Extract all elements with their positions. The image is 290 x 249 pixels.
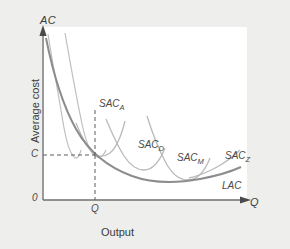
sac-m-label-subscript: M bbox=[198, 157, 204, 166]
figure-container: AC Q Average cost Output 0 C Q SACA SACD… bbox=[0, 0, 290, 249]
chart-canvas bbox=[0, 0, 290, 249]
sac-curve-2 bbox=[65, 33, 106, 157]
x-axis-name: Q bbox=[250, 196, 259, 208]
sac-m-label: SACM bbox=[177, 152, 204, 166]
sac-d-label-subscript: D bbox=[159, 144, 164, 153]
sac-m-label-base: SAC bbox=[177, 152, 198, 163]
y-axis-name: AC bbox=[40, 14, 56, 26]
lac-curve bbox=[46, 38, 241, 182]
sac-z-label-base: SAC bbox=[225, 150, 246, 161]
sac-z-label-subscript: Z bbox=[246, 155, 251, 164]
sac-d-label-base: SAC bbox=[138, 139, 159, 150]
lac-label: LAC bbox=[222, 180, 241, 191]
sac-a-label-subscript: A bbox=[120, 103, 125, 112]
sac-a-curve bbox=[76, 121, 125, 156]
x-axis bbox=[43, 196, 251, 203]
sac-d-label: SACD bbox=[138, 139, 164, 153]
y-tick-label-c: C bbox=[31, 148, 38, 159]
y-axis-title: Average cost bbox=[29, 66, 41, 156]
sac-z-label: SACZ bbox=[225, 150, 250, 164]
sac-a-label-base: SAC bbox=[99, 98, 120, 109]
sac-a-label: SACA bbox=[99, 98, 125, 112]
x-axis-title: Output bbox=[101, 226, 134, 238]
origin-tick-label: 0 bbox=[32, 192, 38, 203]
x-tick-label-q: Q bbox=[91, 203, 99, 214]
